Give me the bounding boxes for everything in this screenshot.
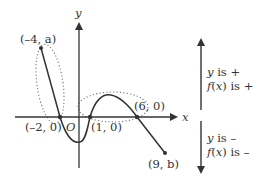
point-1-0-dot (88, 115, 92, 119)
positive-region-ellipse-left (32, 43, 69, 126)
point-6-0-label: (6, 0) (134, 99, 165, 113)
point-9-b-dot (163, 151, 167, 155)
function-sign-diagram: y x O (–4, a) (–2, 0) (1, 0) (6, 0) (9, … (0, 0, 267, 186)
point-neg2-0-dot (58, 115, 62, 119)
legend-positive-line2: f(x) is + (206, 79, 253, 93)
point-9-b-label: (9, b) (148, 157, 179, 171)
point-neg2-0-label: (–2, 0) (25, 120, 62, 134)
legend-negative-line1: y is – (206, 131, 236, 145)
x-axis-label: x (182, 110, 189, 124)
point-neg4-a-dot (39, 46, 43, 50)
point-neg4-a-label: (–4, a) (20, 32, 56, 46)
y-axis-label: y (74, 6, 82, 20)
origin-label: O (66, 120, 76, 134)
point-6-0-dot (135, 115, 139, 119)
legend-positive-line1: y is + (206, 65, 240, 79)
legend-negative-line2: f(x) is – (206, 145, 250, 159)
point-1-0-label: (1, 0) (91, 120, 122, 134)
